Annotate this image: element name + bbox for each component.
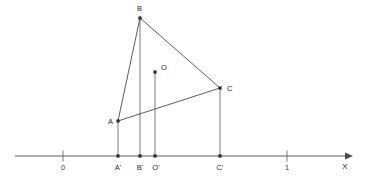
x-axis-arrowhead: [345, 153, 353, 160]
point-O-label: O: [161, 63, 167, 72]
point-C-marker: [218, 86, 221, 89]
segment-AB: [118, 18, 140, 121]
point-B-label: B: [137, 4, 142, 13]
point-B-marker: [138, 16, 141, 19]
point-C-prime-label: C': [216, 163, 224, 172]
segment-AC: [118, 88, 220, 121]
point-O-prime-marker: [153, 154, 156, 157]
point-A-prime-marker: [116, 154, 119, 157]
point-C-prime-marker: [218, 154, 221, 157]
point-B-prime-marker: [138, 154, 141, 157]
point-A-prime-label: A': [115, 163, 122, 172]
point-O-marker: [153, 70, 156, 73]
x-axis-label: X: [342, 162, 348, 171]
point-B-prime-label: B': [137, 163, 144, 172]
geometry-figure-svg: 0 1 X A B C O A' B' O' C': [0, 0, 375, 178]
point-A-label: A: [108, 117, 113, 126]
tick-label-1: 1: [285, 163, 289, 172]
segment-BC: [140, 18, 220, 88]
geometry-diagram: 0 1 X A B C O A' B' O' C': [0, 0, 375, 178]
point-O-prime-label: O': [152, 163, 160, 172]
point-A-marker: [116, 119, 119, 122]
point-C-label: C: [227, 84, 233, 93]
tick-label-0: 0: [61, 163, 65, 172]
